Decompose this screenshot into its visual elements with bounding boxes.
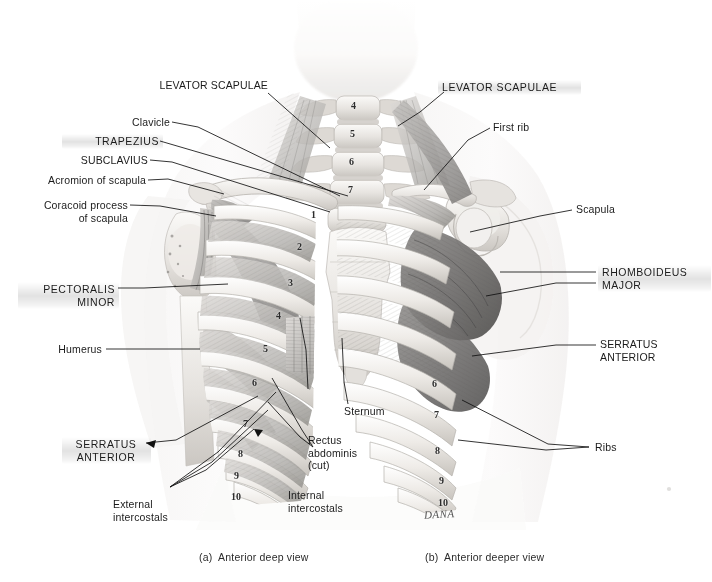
label-rectus-abdominis-cut: Rectus abdominis (cut) xyxy=(308,434,382,472)
caption-b: (b) Anterior deeper view xyxy=(425,551,544,563)
label-external-intercostals: External intercostals xyxy=(113,498,195,523)
label-trapezius: TRAPEZIUS xyxy=(62,134,163,149)
rib-number-right-10: 10 xyxy=(438,497,448,508)
label-serratus-anterior-b: SERRATUS ANTERIOR xyxy=(600,338,684,363)
rib-number-right-6: 6 xyxy=(432,378,437,389)
rib-number-right-7: 7 xyxy=(434,409,439,420)
rib-number-left-1: 1 xyxy=(311,209,316,220)
label-acromion-of-scapula: Acromion of scapula xyxy=(18,174,146,187)
rib-number-left-10: 10 xyxy=(231,491,241,502)
label-scapula: Scapula xyxy=(576,203,642,216)
label-internal-intercostals: Internal intercostals xyxy=(288,489,372,514)
label-coracoid-process-of-scapula: Coracoid process of scapula xyxy=(10,199,128,224)
figure-canvas: LEVATOR SCAPULAE Clavicle TRAPEZIUS SUBC… xyxy=(0,0,712,582)
rib-number-left-3: 3 xyxy=(288,277,293,288)
rib-number-left-9: 9 xyxy=(234,470,239,481)
rib-number-left-8: 8 xyxy=(238,448,243,459)
label-clavicle: Clavicle xyxy=(62,116,170,129)
rib-number-right-9: 9 xyxy=(439,475,444,486)
rib-number-right-8: 8 xyxy=(435,445,440,456)
label-levator-scapulae-a: LEVATOR SCAPULAE xyxy=(74,79,268,92)
label-sternum: Sternum xyxy=(344,405,404,418)
label-rhomboideus-major: RHOMBOIDEUS MAJOR xyxy=(598,265,711,292)
rib-number-left-2: 2 xyxy=(297,241,302,252)
label-subclavius: SUBCLAVIUS xyxy=(42,154,148,167)
vertebra-number-4: 4 xyxy=(351,100,356,111)
caption-a: (a) Anterior deep view xyxy=(199,551,309,563)
label-pectoralis-minor: PECTORALIS MINOR xyxy=(18,282,119,309)
label-levator-scapulae-b: LEVATOR SCAPULAE xyxy=(438,80,581,95)
label-first-rib: First rib xyxy=(493,121,563,134)
vertebra-number-5: 5 xyxy=(350,128,355,139)
rib-number-left-4: 4 xyxy=(276,310,281,321)
label-serratus-anterior-a: SERRATUS ANTERIOR xyxy=(62,437,151,464)
vertebra-number-6: 6 xyxy=(349,156,354,167)
label-humerus: Humerus xyxy=(38,343,102,356)
rib-number-left-7: 7 xyxy=(243,418,248,429)
rib-number-left-6: 6 xyxy=(252,377,257,388)
artist-signature: DANA xyxy=(424,507,455,521)
rib-number-left-5: 5 xyxy=(263,343,268,354)
vertebra-number-7: 7 xyxy=(348,184,353,195)
label-ribs: Ribs xyxy=(595,441,635,454)
